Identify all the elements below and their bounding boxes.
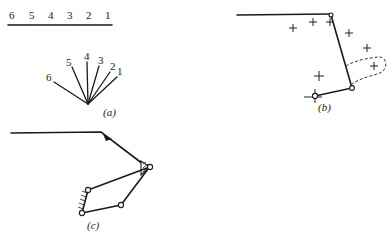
fan-lines <box>54 62 117 104</box>
panel-c: (c) <box>11 132 153 232</box>
plus-icon <box>363 44 371 52</box>
fan-label-6: 6 <box>46 71 52 83</box>
scale-label-5: 5 <box>29 9 35 21</box>
caption-c: (c) <box>87 219 100 232</box>
joint-ground-upper <box>85 187 90 192</box>
joint-ground-lower <box>79 210 84 215</box>
crank-link <box>315 88 352 96</box>
joint-top <box>329 13 333 17</box>
output-link <box>121 169 148 205</box>
plus-markers <box>289 18 378 103</box>
mechanism-figure: 6 5 4 3 2 1 6 5 4 3 2 1 (a) <box>0 0 390 242</box>
panel-b: (b) <box>237 13 386 114</box>
fan-label-2: 2 <box>110 60 116 72</box>
coupler-path-line <box>11 132 143 164</box>
fan-label-5: 5 <box>66 56 72 68</box>
input-path-line <box>237 14 331 15</box>
plus-icon <box>345 29 353 37</box>
plus-icon <box>314 71 324 81</box>
dashed-curve <box>346 57 386 84</box>
plus-icon <box>309 18 317 26</box>
fan-label-4: 4 <box>84 50 90 62</box>
fan-label-1: 1 <box>117 65 123 77</box>
plus-icon <box>370 62 378 70</box>
joint-crank-end <box>350 86 355 91</box>
scale-label-3: 3 <box>67 9 73 21</box>
plus-icon <box>289 24 297 32</box>
panel-a: 6 5 4 3 2 1 6 5 4 3 2 1 (a) <box>8 9 123 119</box>
scale-label-6: 6 <box>9 9 15 21</box>
lower-link <box>82 205 121 213</box>
scale-label-1: 1 <box>105 9 111 21</box>
input-link <box>88 168 147 190</box>
fan-line-2 <box>88 72 110 104</box>
caption-b: (b) <box>318 101 331 114</box>
coupler-link <box>331 15 352 88</box>
ground-link <box>82 190 88 213</box>
caption-a: (a) <box>103 106 116 119</box>
scale-label-2: 2 <box>86 9 92 21</box>
fan-line-4 <box>87 62 88 104</box>
joint-lower <box>118 202 123 207</box>
joint-coupler <box>147 164 152 169</box>
scale-label-4: 4 <box>48 9 54 21</box>
fixed-pivot <box>312 93 317 98</box>
fan-label-3: 3 <box>98 54 104 66</box>
